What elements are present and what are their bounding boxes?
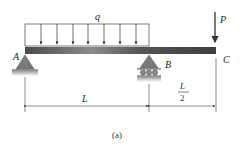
roller-icon <box>152 70 157 75</box>
load-q-label: q <box>95 11 100 22</box>
support-b: B <box>137 55 171 82</box>
beam <box>25 47 216 54</box>
ground-hatch-b <box>137 76 161 82</box>
fraction-denominator: 2 <box>180 93 185 103</box>
label-a: A <box>12 51 20 62</box>
fraction-numerator: L <box>179 81 185 91</box>
load-p-label: P <box>219 14 226 25</box>
dimension-label-l-half: L 2 <box>178 81 189 103</box>
figure-caption: (a) <box>112 130 122 140</box>
roller-support-icon <box>140 55 158 68</box>
load-outline <box>25 24 149 46</box>
roller-icon <box>140 70 145 75</box>
roller-icon <box>146 70 151 75</box>
dimension-label-l: L <box>81 93 88 104</box>
support-a: A <box>12 51 38 76</box>
ground-hatch-a <box>12 70 38 76</box>
label-c: C <box>223 54 230 65</box>
beam-diagram: q P A B C L L 2 (a) <box>0 0 241 153</box>
point-load: P <box>215 12 226 42</box>
load-arrows <box>41 24 136 44</box>
distributed-load: q <box>25 11 149 46</box>
dimensions <box>25 58 216 112</box>
label-b: B <box>165 59 171 70</box>
